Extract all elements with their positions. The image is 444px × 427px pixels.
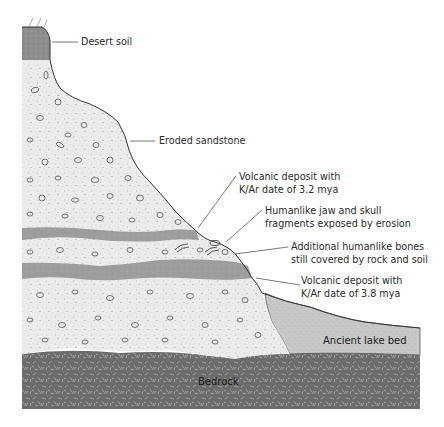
label-bedrock: Bedrock (198, 376, 239, 389)
label-desert-soil: Desert soil (81, 36, 132, 49)
label-eroded-sandstone: Eroded sandstone (159, 135, 245, 148)
label-additional-bones: Additional humanlike bones still covered… (291, 241, 428, 266)
label-volcanic-upper-line2: K/Ar date of 3.2 mya (239, 184, 340, 197)
label-volcanic-upper-line1: Volcanic deposit with (239, 171, 340, 184)
label-additional-bones-line1: Additional humanlike bones (291, 241, 428, 254)
label-ancient-lake-bed: Ancient lake bed (323, 335, 407, 348)
label-volcanic-lower-line2: K/Ar date of 3.8 mya (301, 288, 402, 301)
label-jaw-skull-line1: Humanlike jaw and skull (265, 205, 411, 218)
desert-soil-layer (22, 18, 50, 60)
label-additional-bones-line2: still covered by rock and soil (291, 254, 428, 267)
label-jaw-skull-line2: fragments exposed by erosion (265, 218, 411, 231)
label-volcanic-upper: Volcanic deposit with K/Ar date of 3.2 m… (239, 171, 340, 196)
label-jaw-skull: Humanlike jaw and skull fragments expose… (265, 205, 411, 230)
sandstone-layer (22, 60, 290, 359)
label-volcanic-lower-line1: Volcanic deposit with (301, 275, 402, 288)
label-volcanic-lower: Volcanic deposit with K/Ar date of 3.8 m… (301, 275, 402, 300)
